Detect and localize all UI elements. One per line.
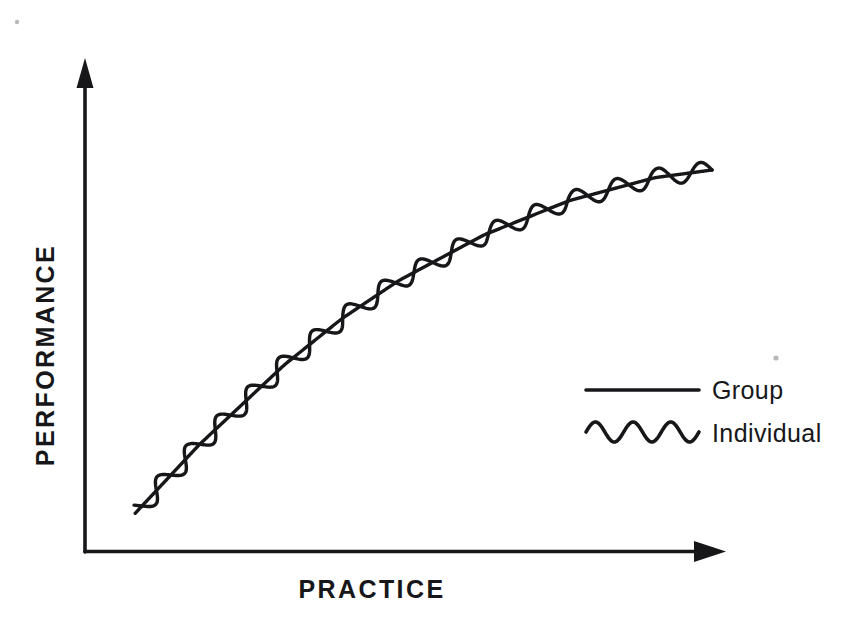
group-curve-path <box>135 170 712 513</box>
chart-canvas: PERFORMANCE PRACTICE Group Individual <box>0 0 856 619</box>
legend: Group Individual <box>586 376 822 447</box>
legend-entry-group[interactable]: Group <box>586 376 783 404</box>
x-axis-arrowhead <box>694 541 726 562</box>
scan-speck <box>15 20 19 24</box>
axes-group <box>77 58 727 562</box>
legend-label-group: Group <box>712 376 783 404</box>
legend-label-individual: Individual <box>712 419 822 447</box>
x-axis-label: PRACTICE <box>299 575 446 603</box>
learning-curve-figure: PERFORMANCE PRACTICE Group Individual <box>0 0 856 619</box>
plot-series-group <box>134 162 712 513</box>
scan-speck <box>773 355 778 360</box>
y-axis-label: PERFORMANCE <box>31 244 59 466</box>
legend-entry-individual[interactable]: Individual <box>586 419 822 447</box>
individual-curve-path <box>134 162 712 506</box>
y-axis-arrowhead <box>77 58 94 88</box>
legend-swatch-wavy-line-icon <box>586 422 699 442</box>
